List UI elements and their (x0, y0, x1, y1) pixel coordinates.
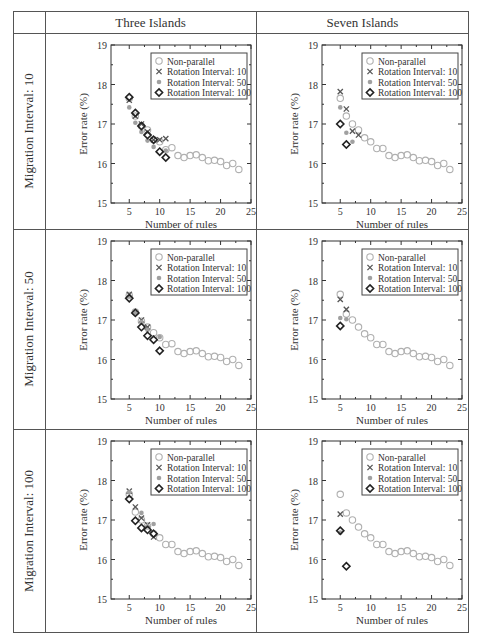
x-tick-label: 15 (185, 206, 195, 217)
x-tick-label: 25 (457, 206, 467, 217)
legend-entry: Rotation Interval: 10 (378, 463, 457, 473)
legend-entry: Rotation Interval: 100 (378, 88, 462, 98)
data-point-circle (349, 317, 355, 323)
data-point-dot (151, 522, 156, 527)
x-tick-label: 20 (216, 206, 226, 217)
data-point-diamond (343, 141, 350, 148)
y-tick-label: 15 (308, 394, 318, 405)
data-point-circle (367, 139, 373, 145)
data-point-circle (428, 158, 434, 164)
y-tick-label: 15 (308, 198, 318, 209)
legend-entry: Non-parallel (167, 57, 215, 67)
data-point-dot (368, 80, 373, 85)
x-tick-label: 15 (185, 602, 195, 613)
x-tick-label: 15 (396, 402, 406, 413)
data-point-dot (344, 130, 349, 135)
data-point-circle (181, 154, 187, 160)
x-axis-label: Number of rules (145, 414, 217, 426)
data-point-circle (441, 160, 447, 166)
data-point-circle (374, 341, 380, 347)
row-header: Migration Interval: 10 (21, 73, 36, 189)
y-tick-label: 17 (97, 119, 107, 130)
series (338, 297, 349, 312)
y-tick-label: 16 (308, 555, 318, 566)
y-tick-label: 15 (308, 594, 318, 605)
data-point-circle (434, 558, 440, 564)
data-point-circle (175, 548, 181, 554)
data-point-circle (343, 113, 349, 119)
legend-entry: Rotation Interval: 50 (167, 274, 246, 284)
x-tick-label: 25 (246, 402, 256, 413)
y-tick-label: 17 (97, 515, 107, 526)
series (127, 98, 169, 143)
data-point-x (344, 106, 349, 111)
y-tick-label: 17 (308, 315, 318, 326)
legend-entry: Rotation Interval: 100 (378, 284, 462, 294)
data-point-x (338, 89, 343, 94)
legend-entry: Rotation Interval: 50 (378, 274, 457, 284)
x-tick-label: 25 (246, 602, 256, 613)
x-tick-label: 10 (366, 206, 376, 217)
x-tick-label: 10 (366, 402, 376, 413)
legend: Non-parallelRotation Interval: 10Rotatio… (362, 249, 462, 295)
data-point-circle (447, 166, 453, 172)
data-point-circle (349, 121, 355, 127)
series (337, 291, 453, 368)
data-point-circle (410, 350, 416, 356)
data-point-circle (355, 524, 361, 530)
data-point-circle (349, 517, 355, 523)
series (338, 316, 349, 322)
data-point-circle (355, 324, 361, 330)
y-tick-label: 19 (308, 236, 318, 247)
data-point-circle (199, 550, 205, 556)
x-axis-label: Number of rules (145, 218, 217, 230)
data-point-circle (392, 550, 398, 556)
data-point-circle (163, 541, 169, 547)
data-point-diamond (337, 322, 344, 329)
data-point-circle (223, 358, 229, 364)
data-point-circle (422, 353, 428, 359)
data-point-diamond (337, 120, 344, 127)
y-tick-label: 19 (308, 436, 318, 447)
series (127, 490, 156, 528)
data-point-circle (169, 341, 175, 347)
data-point-circle (422, 157, 428, 163)
data-point-circle (236, 562, 242, 568)
legend-entry: Rotation Interval: 100 (167, 484, 251, 494)
data-point-circle (236, 362, 242, 368)
data-point-circle (217, 354, 223, 360)
x-axis-label: Number of rules (145, 614, 217, 626)
data-point-dot (350, 139, 355, 144)
data-point-dot (368, 476, 373, 481)
data-point-circle (217, 554, 223, 560)
data-point-dot (133, 121, 138, 126)
legend-entry: Non-parallel (167, 453, 215, 463)
data-point-circle (205, 354, 211, 360)
data-point-circle (230, 160, 236, 166)
chart-grid-svg: Three IslandsSeven IslandsMigration Inte… (13, 11, 469, 633)
series (337, 527, 350, 570)
chart-grid-table: Three IslandsSeven IslandsMigration Inte… (13, 11, 469, 633)
y-axis-label: Error rate (%) (77, 289, 90, 351)
data-point-circle (434, 358, 440, 364)
data-point-x (338, 511, 343, 516)
legend: Non-parallelRotation Interval: 10Rotatio… (151, 249, 251, 295)
data-point-circle (447, 362, 453, 368)
legend-entry: Rotation Interval: 10 (167, 263, 246, 273)
data-point-circle (211, 353, 217, 359)
data-point-circle (230, 556, 236, 562)
legend-entry: Rotation Interval: 50 (167, 474, 246, 484)
series (338, 511, 343, 516)
y-tick-label: 17 (308, 119, 318, 130)
data-point-circle (193, 348, 199, 354)
data-point-dot (157, 80, 162, 85)
legend-entry: Non-parallel (378, 57, 426, 67)
data-point-circle (187, 152, 193, 158)
y-tick-label: 16 (97, 355, 107, 366)
data-point-circle (223, 162, 229, 168)
data-point-circle (441, 356, 447, 362)
y-tick-label: 16 (308, 159, 318, 170)
legend: Non-parallelRotation Interval: 10Rotatio… (362, 53, 462, 99)
y-axis-label: Error rate (%) (77, 489, 90, 551)
data-point-circle (337, 491, 343, 497)
